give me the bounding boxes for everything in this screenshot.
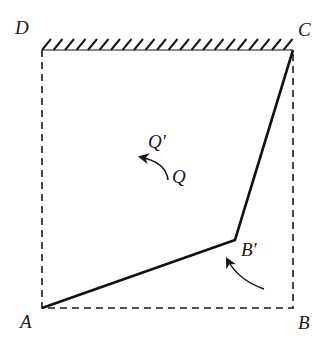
hatch-stroke: [215, 39, 224, 50]
label-B-prime: B′: [241, 240, 257, 259]
hatch-stroke: [54, 39, 63, 50]
hatch-stroke: [203, 39, 212, 50]
hatch-stroke: [249, 39, 258, 50]
label-A: A: [20, 312, 32, 331]
label-B: B: [298, 313, 310, 332]
hatch-stroke: [272, 39, 281, 50]
hatch-stroke: [238, 39, 247, 50]
rotation-arrow-b-icon: [227, 259, 264, 289]
hatch-stroke: [134, 39, 143, 50]
label-Q: Q: [172, 167, 186, 186]
label-D: D: [15, 18, 29, 37]
hatch-stroke: [261, 39, 270, 50]
hatch-stroke: [123, 39, 132, 50]
hatch-stroke: [100, 39, 109, 50]
hatch-stroke: [226, 39, 235, 50]
hatch-stroke: [88, 39, 97, 50]
diagram-canvas: [0, 0, 326, 357]
label-C: C: [298, 20, 311, 39]
fixed-support-hatching: [42, 39, 293, 50]
rotation-arrow-q-icon: [140, 157, 168, 180]
label-Q-prime: Q′: [148, 132, 166, 151]
hatch-stroke: [284, 39, 293, 50]
hatch-stroke: [180, 39, 189, 50]
hatch-stroke: [169, 39, 178, 50]
mechanism-diagram: D C A B B′ Q′ Q: [0, 0, 326, 357]
hatch-stroke: [192, 39, 201, 50]
hatch-stroke: [157, 39, 166, 50]
hatch-stroke: [77, 39, 86, 50]
hatch-stroke: [42, 39, 51, 50]
hatch-stroke: [111, 39, 120, 50]
hatch-stroke: [146, 39, 155, 50]
hatch-stroke: [65, 39, 74, 50]
